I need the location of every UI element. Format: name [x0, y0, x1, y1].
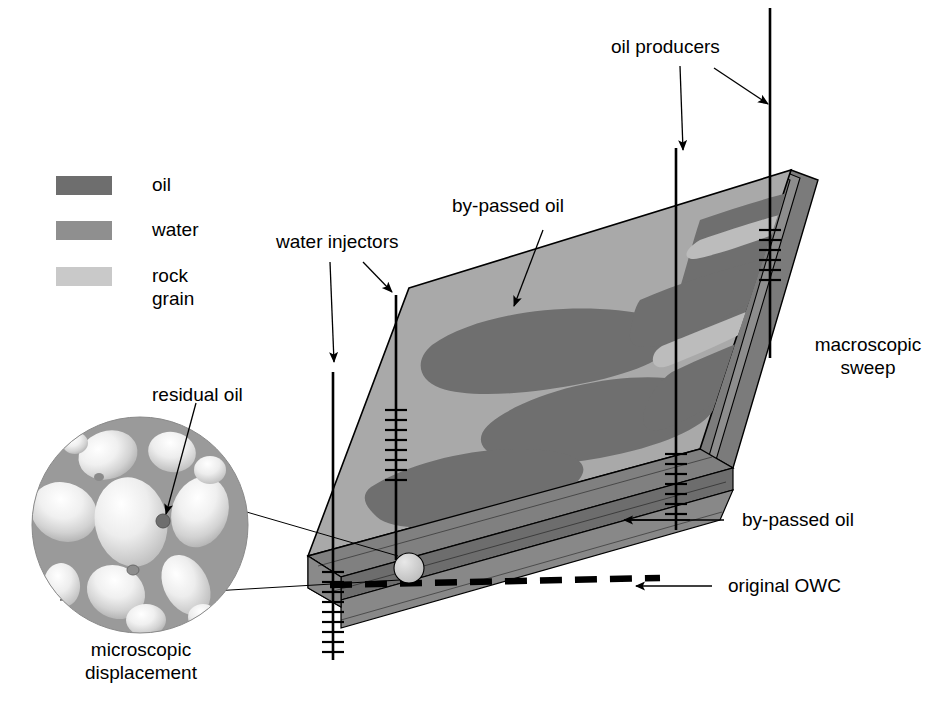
legend-swatch-rock-grain — [56, 267, 112, 286]
legend-label-oil: oil — [152, 173, 171, 196]
diagram-canvas — [0, 0, 939, 704]
residual-oil-droplet — [127, 565, 139, 575]
label-macroscopic-sweep: macroscopic sweep — [805, 333, 931, 379]
legend-swatch-water — [56, 221, 112, 240]
residual-oil-droplet — [156, 514, 170, 528]
label-microscopic-displacement: microscopic displacement — [35, 638, 247, 684]
residual-oil-droplet — [94, 473, 104, 481]
label-bypassed-oil-top: by-passed oil — [452, 194, 564, 217]
arrow-water-injectors-to-right-well — [363, 262, 392, 292]
magnification-source-point — [394, 553, 424, 583]
label-original-owc: original OWC — [728, 574, 841, 597]
perforations-producer-left — [665, 454, 687, 514]
legend-label-rock-grain: rock grain — [152, 264, 194, 310]
label-bypassed-oil-right: by-passed oil — [742, 508, 854, 531]
rock-grain — [62, 432, 88, 454]
microscopic-inset — [21, 417, 248, 636]
arrow-water-injectors-to-left-well — [330, 262, 334, 362]
label-residual-oil: residual oil — [152, 383, 243, 406]
legend-swatch-oil — [56, 176, 112, 195]
rock-grain — [188, 604, 218, 630]
legend-label-water: water — [152, 218, 198, 241]
figure-root: oil water rock grain oil producers by-pa… — [0, 0, 939, 704]
arrow-oil-producers-to-left-well — [680, 66, 683, 150]
rock-grain — [194, 456, 226, 484]
label-oil-producers: oil producers — [611, 35, 720, 58]
label-water-injectors: water injectors — [276, 230, 399, 253]
arrow-oil-producers-to-right-well — [714, 68, 768, 104]
